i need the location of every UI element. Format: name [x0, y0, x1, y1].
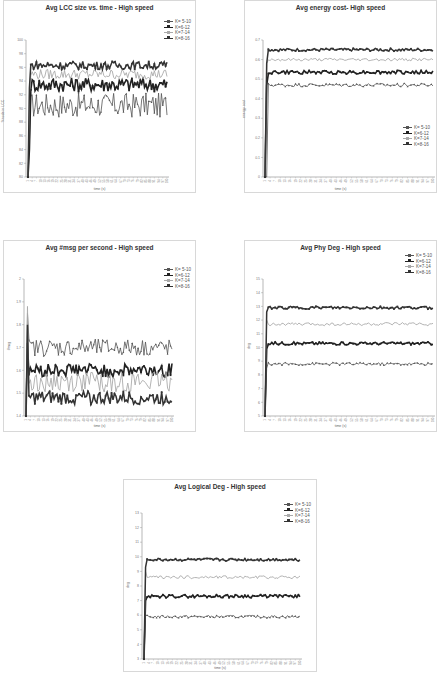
- x-tick-label: 7: [273, 180, 277, 182]
- x-tick-label: 10: [37, 418, 41, 422]
- x-tick-label: 64: [370, 179, 374, 183]
- x-tick-label: 28: [185, 661, 189, 665]
- x-tick-label: 13: [42, 418, 46, 422]
- legend-marker-icon: [164, 269, 173, 270]
- x-tick-label: 16: [46, 418, 50, 422]
- y-tick-label: 0.3: [255, 116, 260, 120]
- legend-label: K=8-16: [295, 519, 310, 525]
- legend-marker-icon: [403, 138, 412, 139]
- x-tick-label: 4: [28, 419, 32, 421]
- x-tick-label: 49: [95, 418, 99, 422]
- y-tick-label: 0.2: [255, 136, 260, 140]
- x-tick-label: 85: [406, 179, 410, 183]
- x-tick-label: 52: [222, 661, 226, 665]
- legend-label: K=8-16: [414, 142, 429, 148]
- x-tick-label: 1: [263, 419, 267, 421]
- x-tick-label: 25: [304, 418, 308, 422]
- y-tick-label: 1.6: [16, 369, 21, 373]
- x-tick-label: 91: [284, 661, 288, 665]
- legend-item: K=8-16: [405, 270, 432, 276]
- y-axis-label: #msg: [7, 342, 11, 351]
- legend-marker-icon: [164, 27, 173, 28]
- y-tick-label: 0.1: [255, 156, 260, 160]
- x-tick-label: 67: [375, 179, 379, 183]
- x-tick-label: 31: [189, 661, 193, 665]
- legend-marker-icon: [164, 280, 173, 281]
- x-axis-label: time (s): [4, 187, 195, 191]
- legend-marker-icon: [405, 255, 414, 256]
- x-tick-label: 79: [139, 418, 143, 422]
- x-tick-label: 7: [33, 419, 37, 421]
- y-tick-label: 1.9: [16, 300, 21, 304]
- x-tick-label: 40: [82, 418, 86, 422]
- y-axis-label: %node in LCC: [1, 100, 5, 123]
- x-tick-label: 100: [170, 417, 174, 422]
- x-tick-label: 61: [237, 661, 241, 665]
- x-tick-label: 88: [411, 418, 415, 422]
- x-tick-label: 82: [400, 179, 404, 183]
- x-axis-label: time (s): [245, 187, 436, 191]
- x-tick-label: 19: [170, 661, 174, 665]
- x-tick-label: 76: [390, 418, 394, 422]
- x-tick-label: 82: [143, 418, 147, 422]
- x-tick-label: 22: [299, 179, 303, 183]
- y-tick-label: 12: [256, 318, 260, 322]
- x-tick-label: 82: [400, 418, 404, 422]
- x-tick-label: 46: [213, 661, 217, 665]
- x-axis-label: time (s): [124, 666, 316, 670]
- y-tick-label: 6: [137, 613, 139, 617]
- legend-marker-icon: [403, 144, 412, 145]
- legend-marker-icon: [284, 510, 293, 511]
- x-tick-label: 28: [309, 418, 313, 422]
- y-tick-label: 0.7: [255, 38, 260, 42]
- x-tick-label: 70: [251, 661, 255, 665]
- x-tick-label: 73: [385, 179, 389, 183]
- x-tick-label: 67: [375, 418, 379, 422]
- y-tick-label: 88: [19, 120, 23, 124]
- legend-item: K=8-16: [164, 284, 191, 290]
- x-tick-label: 76: [135, 418, 139, 422]
- x-tick-label: 7: [151, 662, 155, 664]
- y-tick-label: 1.4: [16, 414, 21, 418]
- x-tick-label: 79: [265, 661, 269, 665]
- x-tick-label: 1: [263, 180, 267, 182]
- x-tick-label: 64: [117, 418, 121, 422]
- y-tick-label: 100: [17, 38, 23, 42]
- x-tick-label: 91: [157, 418, 161, 422]
- y-tick-label: 6: [258, 401, 260, 405]
- x-tick-label: 97: [166, 418, 170, 422]
- series-line: [144, 595, 300, 659]
- x-tick-label: 79: [395, 179, 399, 183]
- series-line: [28, 93, 167, 177]
- y-tick-label: 4: [137, 643, 139, 647]
- series-line: [144, 558, 300, 659]
- x-tick-label: 97: [293, 661, 297, 665]
- x-tick-label: 100: [431, 417, 435, 422]
- x-tick-label: 52: [350, 179, 354, 183]
- x-tick-label: 10: [156, 661, 160, 665]
- y-tick-label: 82: [19, 162, 23, 166]
- x-tick-label: 31: [68, 418, 72, 422]
- legend-marker-icon: [164, 286, 173, 287]
- chart-phy-deg: Avg Phy Deg - High speed 567891011121314…: [244, 240, 437, 432]
- legend-marker-icon: [164, 21, 173, 22]
- x-tick-label: 34: [319, 179, 323, 183]
- y-tick-label: 2: [19, 277, 21, 281]
- chart-energy: Avg energy cost- High speed 00.10.20.30.…: [244, 0, 437, 193]
- y-tick-label: 94: [19, 79, 23, 83]
- x-tick-label: 91: [416, 418, 420, 422]
- y-tick-label: 11: [256, 332, 260, 336]
- legend-marker-icon: [164, 38, 173, 39]
- y-tick-label: 8: [258, 373, 260, 377]
- x-tick-label: 22: [299, 418, 303, 422]
- x-tick-label: 100: [431, 178, 435, 183]
- series-line: [265, 320, 433, 416]
- x-tick-label: 37: [199, 661, 203, 665]
- x-tick-label: 100: [298, 660, 302, 665]
- legend-label: K=8-16: [175, 36, 190, 42]
- y-tick-label: 80: [19, 175, 23, 179]
- x-tick-label: 25: [304, 179, 308, 183]
- y-tick-label: 9: [137, 570, 139, 574]
- x-tick-label: 4: [147, 662, 151, 664]
- legend-marker-icon: [403, 127, 412, 128]
